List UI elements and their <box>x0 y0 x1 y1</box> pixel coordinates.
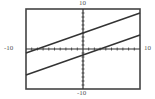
graph-plot <box>0 0 155 99</box>
